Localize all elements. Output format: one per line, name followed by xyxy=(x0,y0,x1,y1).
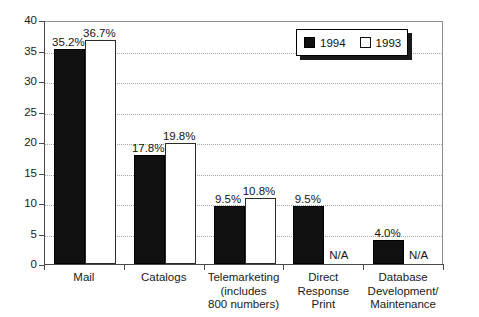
bar-1993 xyxy=(85,40,116,264)
bar-value-label-1993: 36.7% xyxy=(83,27,116,39)
y-axis-tick-label: 0 xyxy=(0,259,37,271)
legend-swatch-black-icon xyxy=(304,37,315,48)
bar-value-label-1993-na: N/A xyxy=(329,249,348,261)
x-axis-line xyxy=(44,264,444,265)
bar-1993 xyxy=(165,143,196,264)
x-axis-category-label: Database Development/ Maintenance xyxy=(355,271,451,312)
y-axis-tick-label: 10 xyxy=(0,198,37,210)
x-axis-tick-mark xyxy=(363,265,364,270)
y-axis-tick-label: 5 xyxy=(0,229,37,241)
x-axis-tick-mark xyxy=(443,265,444,270)
bar-value-label-1993: 10.8% xyxy=(243,185,276,197)
bar-value-label-1994: 9.5% xyxy=(215,193,241,205)
bar-value-label-1994: 9.5% xyxy=(295,193,321,205)
y-axis-tick-label: 40 xyxy=(0,15,37,27)
y-axis-tick-label: 20 xyxy=(0,137,37,149)
bar-1994 xyxy=(373,240,404,264)
legend-entry-1993: 1993 xyxy=(360,37,402,49)
x-axis-tick-mark xyxy=(44,265,45,270)
bar-1994 xyxy=(293,206,324,264)
bar-value-label-1993: 19.8% xyxy=(163,130,196,142)
y-axis-tick-label: 25 xyxy=(0,107,37,119)
y-axis-tick-label: 15 xyxy=(0,168,37,180)
clipped-chart-title xyxy=(8,0,308,4)
legend-entry-1994: 1994 xyxy=(304,37,346,49)
x-axis-tick-mark xyxy=(124,265,125,270)
bar-1994 xyxy=(134,155,165,264)
legend-label-1993: 1993 xyxy=(376,37,402,49)
bar-chart: 0510152025303540 35.2%36.7%17.8%19.8%9.5… xyxy=(0,0,479,317)
legend-box: 1994 1993 xyxy=(296,29,408,56)
bar-value-label-1993-na: N/A xyxy=(409,249,428,261)
y-axis-tick-label: 30 xyxy=(0,76,37,88)
bar-1993 xyxy=(245,198,276,264)
bar-value-label-1994: 35.2% xyxy=(52,36,85,48)
bar-1994 xyxy=(54,49,85,264)
legend-label-1994: 1994 xyxy=(320,37,346,49)
x-axis-tick-mark xyxy=(283,265,284,270)
legend-swatch-white-icon xyxy=(360,37,371,48)
y-axis-tick-label: 35 xyxy=(0,46,37,58)
legend: 1994 1993 xyxy=(296,29,408,56)
bar-value-label-1994: 4.0% xyxy=(374,227,400,239)
bar-value-label-1994: 17.8% xyxy=(132,142,165,154)
x-axis-tick-mark xyxy=(204,265,205,270)
bar-1994 xyxy=(214,206,245,264)
